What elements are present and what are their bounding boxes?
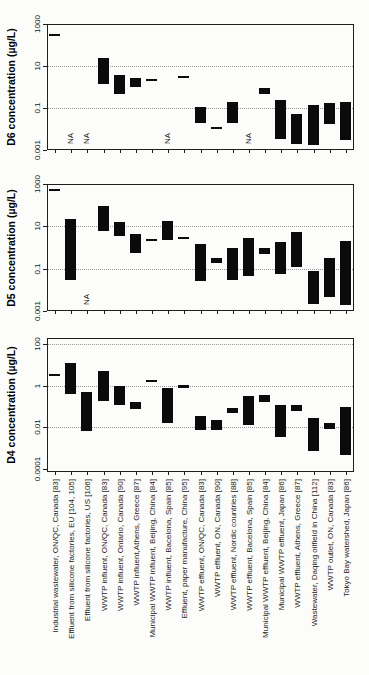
x-category-label: Municipal WWTP effluent, Japan [86] <box>277 479 286 671</box>
x-category-label: WWTP influent, Ontario, Canada [90] <box>116 479 125 671</box>
range-bar <box>227 102 238 123</box>
x-tick-mark <box>249 311 250 314</box>
range-bar <box>291 405 302 411</box>
range-bar <box>65 363 76 394</box>
x-tick-mark <box>201 311 202 314</box>
range-bar <box>308 105 319 145</box>
y-tick-mark <box>43 386 47 387</box>
x-tick-mark <box>136 311 137 314</box>
panel-plot-border-overlay <box>47 338 354 472</box>
x-tick-mark <box>184 472 185 475</box>
x-tick-mark <box>297 311 298 314</box>
y-tick-label: 10 <box>33 212 42 240</box>
x-category-label: WWTP effluent, Nordic countries [88] <box>229 479 238 671</box>
range-bar <box>243 238 254 276</box>
range-bar <box>162 221 173 240</box>
range-bar <box>162 388 173 423</box>
x-category-label: WWTP influent, ON/QC, Canada [83] <box>100 479 109 671</box>
value-dash <box>211 127 222 129</box>
x-tick-mark <box>217 150 218 153</box>
value-dash <box>49 374 60 376</box>
y-tick-mark <box>43 24 47 25</box>
x-tick-mark <box>233 311 234 314</box>
x-tick-mark <box>104 311 105 314</box>
range-bar <box>195 416 206 430</box>
x-tick-mark <box>314 311 315 314</box>
concentration-figure: 1000100.10.001D6 concentration (µg/L)NAN… <box>0 0 369 675</box>
range-bar <box>211 258 222 263</box>
x-category-label: Tokyo Bay watershed, Japan [86] <box>342 479 351 671</box>
x-tick-mark <box>217 311 218 314</box>
range-bar <box>81 392 92 431</box>
x-tick-mark <box>104 150 105 153</box>
y-tick-label: 0.1 <box>33 255 42 283</box>
x-category-label: Wastewater, Daqing oilfield in China [11… <box>310 479 319 671</box>
y-tick-label: 0.001 <box>33 297 42 325</box>
y-tick-label: 1 <box>33 372 42 400</box>
x-tick-mark <box>184 150 185 153</box>
range-bar <box>324 258 335 297</box>
y-tick-label: 10 <box>33 52 42 80</box>
y-tick-label: 1000 <box>33 170 42 198</box>
range-bar <box>243 396 254 425</box>
x-tick-mark <box>265 472 266 475</box>
x-category-label: Municipal WWTP effluent, Beijing, China … <box>261 479 270 671</box>
x-tick-mark <box>120 150 121 153</box>
x-tick-mark <box>281 472 282 475</box>
value-dash <box>178 76 189 78</box>
range-bar <box>324 103 335 124</box>
range-bar <box>98 58 109 84</box>
x-tick-mark <box>265 311 266 314</box>
range-bar <box>259 88 270 94</box>
x-tick-mark <box>55 311 56 314</box>
x-tick-mark <box>281 311 282 314</box>
x-tick-mark <box>249 472 250 475</box>
range-bar <box>114 386 125 405</box>
range-bar <box>130 234 141 253</box>
x-tick-mark <box>233 472 234 475</box>
x-category-label: Industrial wastewater, ON/QC, Canada [83… <box>51 479 60 671</box>
range-bar <box>114 75 125 94</box>
x-tick-mark <box>330 311 331 314</box>
x-tick-mark <box>152 472 153 475</box>
x-tick-mark <box>233 150 234 153</box>
range-bar <box>259 395 270 402</box>
x-tick-mark <box>168 150 169 153</box>
x-tick-mark <box>87 472 88 475</box>
range-bar <box>340 102 351 140</box>
x-category-label: Municipal WWTP influent, Beijing, China … <box>148 479 157 671</box>
x-tick-mark <box>330 150 331 153</box>
y-tick-mark <box>43 469 47 470</box>
x-tick-mark <box>71 311 72 314</box>
y-axis-title: D5 concentration (µg/L) <box>5 185 17 311</box>
x-tick-mark <box>168 311 169 314</box>
x-tick-mark <box>281 150 282 153</box>
x-tick-mark <box>152 150 153 153</box>
y-axis-title: D6 concentration (µg/L) <box>5 24 17 150</box>
y-gridline <box>48 386 353 387</box>
x-tick-mark <box>71 150 72 153</box>
range-bar <box>275 100 286 139</box>
na-label: NA <box>82 279 91 305</box>
y-tick-label: 1000 <box>33 10 42 38</box>
range-bar <box>324 423 335 429</box>
x-category-label: WWTP effluent, Bacelona, Spain [85] <box>245 479 254 671</box>
value-dash <box>49 34 60 36</box>
x-tick-mark <box>104 472 105 475</box>
value-dash <box>146 380 157 382</box>
x-tick-mark <box>217 472 218 475</box>
range-bar <box>195 107 206 123</box>
range-bar <box>275 242 286 274</box>
value-dash <box>49 189 60 191</box>
y-tick-mark <box>43 66 47 67</box>
x-tick-mark <box>201 472 202 475</box>
y-axis-title: D4 concentration (µg/L) <box>5 342 17 468</box>
x-tick-mark <box>87 150 88 153</box>
x-tick-mark <box>168 472 169 475</box>
x-tick-mark <box>55 150 56 153</box>
range-bar <box>65 219 76 280</box>
range-bar <box>227 408 238 413</box>
na-label: NA <box>82 118 91 144</box>
x-tick-mark <box>152 311 153 314</box>
y-tick-mark <box>43 269 47 270</box>
